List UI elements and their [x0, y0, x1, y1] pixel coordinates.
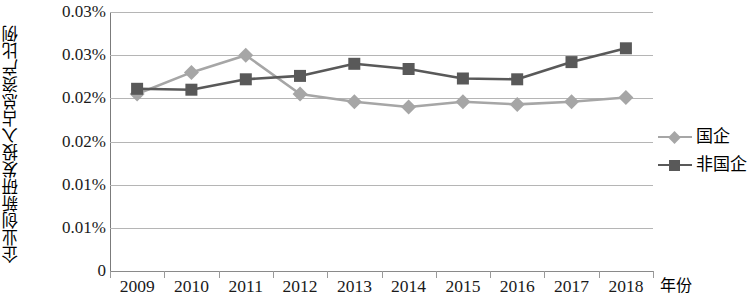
- legend-symbol: [669, 160, 680, 171]
- legend-label: 非国企: [696, 156, 747, 173]
- data-point-marker: [240, 73, 252, 85]
- data-point-marker: [184, 65, 199, 80]
- series-line: [137, 48, 626, 89]
- chart-container: 企业创新研发投入占总资产比例 0.03%0.03%0.02%0.02%0.01%…: [0, 0, 755, 308]
- data-point-marker: [131, 83, 143, 95]
- y-axis-tick-label: 0.01%: [22, 219, 106, 236]
- data-point-marker: [347, 94, 362, 109]
- legend-item-soe[interactable]: 国企: [658, 128, 747, 145]
- series-layer: [110, 12, 653, 271]
- data-point-marker: [455, 94, 470, 109]
- y-axis-tick-label: 0.03%: [22, 46, 106, 63]
- data-point-marker: [566, 56, 578, 68]
- square-marker-icon: [658, 157, 692, 173]
- data-point-marker: [185, 84, 197, 96]
- data-point-marker: [403, 63, 415, 75]
- plot-area: [110, 12, 653, 271]
- data-point-marker: [294, 70, 306, 82]
- legend-label: 国企: [696, 128, 730, 145]
- series-line: [137, 55, 626, 107]
- data-point-marker: [510, 97, 525, 112]
- x-axis-title: 年份: [660, 277, 692, 295]
- data-point-marker: [457, 73, 469, 85]
- legend-item-nonsoe[interactable]: 非国企: [658, 156, 747, 173]
- y-axis-tick-label: 0: [22, 262, 106, 279]
- chart-legend: 国企非国企: [658, 128, 747, 173]
- legend-symbol: [668, 131, 681, 144]
- y-axis-tick-label: 0.02%: [22, 133, 106, 150]
- y-axis-title-text: 企业创新研发投入占总资产比例: [4, 25, 21, 263]
- data-point-marker: [564, 94, 579, 109]
- data-point-marker: [348, 58, 360, 70]
- y-axis-tick-label: 0.02%: [22, 89, 106, 106]
- x-axis-tick-label: 2018: [594, 277, 658, 296]
- series-soe: [130, 48, 634, 115]
- y-axis-tick-label: 0.03%: [22, 3, 106, 20]
- data-point-marker: [620, 42, 632, 54]
- diamond-marker-icon: [658, 129, 692, 145]
- data-point-marker: [511, 73, 523, 85]
- y-axis-tick-labels: 0.03%0.03%0.02%0.02%0.01%0.01%0: [20, 0, 106, 308]
- y-axis-tick-label: 0.01%: [22, 176, 106, 193]
- data-point-marker: [618, 90, 633, 105]
- data-point-marker: [401, 99, 416, 114]
